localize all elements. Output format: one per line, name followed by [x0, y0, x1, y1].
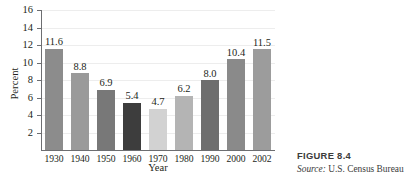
figure-number: FIGURE 8.4: [297, 150, 401, 161]
gridline: [42, 10, 275, 11]
bar-value-label: 6.2: [177, 84, 190, 95]
bar-value-label: 4.7: [151, 97, 164, 108]
bar: 11.5: [253, 49, 272, 150]
x-axis-title: Year: [41, 162, 275, 173]
bar-value-label: 8.8: [73, 62, 86, 73]
source-text: U.S. Census Bureau: [328, 164, 404, 174]
bar: 10.4: [227, 59, 246, 150]
y-axis-tick-label: 10: [9, 58, 33, 69]
bar-value-label: 11.5: [253, 38, 271, 49]
source-note: Source: U.S. Census Bureau: [297, 164, 401, 175]
y-axis-tick-label: 16: [9, 5, 33, 16]
y-axis-line: [41, 10, 42, 151]
bar: 11.6: [45, 49, 64, 151]
bar-value-label: 5.4: [125, 91, 138, 102]
figure-caption: FIGURE 8.4 Source: U.S. Census Bureau: [297, 150, 401, 176]
bar-value-label: 6.9: [99, 78, 112, 89]
y-axis-tick-label: 6: [9, 93, 33, 104]
y-axis-tick-label: 12: [9, 40, 33, 51]
y-axis-tick-label: 14: [9, 23, 33, 34]
source-label: Source:: [297, 164, 326, 174]
bar: 6.2: [175, 96, 194, 150]
bar-value-label: 11.6: [45, 37, 63, 48]
bar: 6.9: [97, 90, 116, 150]
bar-value-label: 8.0: [203, 69, 216, 80]
bar: 8.0: [201, 80, 220, 150]
bar: 8.8: [71, 73, 90, 150]
plot-area: 246810121416 11.68.86.95.44.76.28.010.41…: [41, 10, 275, 150]
x-axis-line: [41, 150, 275, 151]
y-axis-tick-label: 2: [9, 128, 33, 139]
bar-value-label: 10.4: [227, 48, 245, 59]
bar: 5.4: [123, 103, 142, 150]
bar: 4.7: [149, 109, 168, 150]
y-axis-tick-label: 4: [9, 110, 33, 121]
y-axis-tick-label: 8: [9, 75, 33, 86]
gridline: [42, 28, 275, 29]
